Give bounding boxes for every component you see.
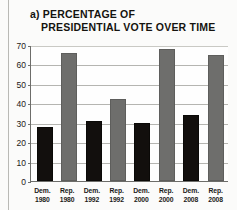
- bar-rep-2008: [208, 55, 224, 181]
- plot-area: [30, 46, 228, 182]
- y-tick-label-10: 10: [2, 159, 26, 167]
- bar-slot: [33, 46, 57, 181]
- x-tick-label-rep-2008: Rep.2008: [203, 186, 228, 204]
- x-tick-label-rep-2000: Rep.2000: [154, 186, 179, 204]
- x-label-year: 1980: [55, 195, 80, 204]
- x-label-party: Rep.: [55, 186, 80, 195]
- bar-dem-1992: [86, 121, 102, 181]
- bar-group: [33, 46, 229, 181]
- bar-slot: [81, 46, 105, 181]
- bar-slot: [57, 46, 81, 181]
- bar-rep-1992: [110, 99, 126, 181]
- y-tick-label-70: 70: [2, 42, 26, 50]
- y-tick-label-60: 60: [2, 61, 26, 69]
- x-label-year: 1980: [30, 195, 55, 204]
- chart-title-line-2: PRESIDENTIAL VOTE OVER TIME: [30, 21, 230, 34]
- x-tick-label-dem-1992: Dem.1992: [80, 186, 105, 204]
- x-label-party: Dem.: [30, 186, 55, 195]
- y-tick-label-30: 30: [2, 120, 26, 128]
- y-tick-label-50: 50: [2, 81, 26, 89]
- chart-title: a) PERCENTAGE OF PRESIDENTIAL VOTE OVER …: [30, 8, 230, 34]
- x-label-year: 2000: [154, 195, 179, 204]
- bar-dem-2000: [134, 123, 150, 181]
- x-label-party: Rep.: [154, 186, 179, 195]
- x-tick-label-dem-2008: Dem.2008: [179, 186, 204, 204]
- bar-slot: [155, 46, 179, 181]
- x-tick-label-dem-2000: Dem.2000: [129, 186, 154, 204]
- chart-title-line-1: a) PERCENTAGE OF: [30, 8, 230, 21]
- x-label-year: 2008: [179, 195, 204, 204]
- bar-slot: [130, 46, 154, 181]
- x-label-party: Rep.: [203, 186, 228, 195]
- bar-rep-1980: [61, 53, 77, 181]
- bar-dem-2008: [183, 115, 199, 181]
- x-label-year: 1992: [80, 195, 105, 204]
- x-label-year: 2008: [203, 195, 228, 204]
- x-label-party: Dem.: [179, 186, 204, 195]
- bar-slot: [179, 46, 203, 181]
- y-tick-label-40: 40: [2, 100, 26, 108]
- bar-rep-2000: [159, 49, 175, 181]
- bar-slot: [106, 46, 130, 181]
- x-label-year: 2000: [129, 195, 154, 204]
- y-axis: 010203040506070: [0, 0, 30, 210]
- x-label-party: Dem.: [80, 186, 105, 195]
- y-tick-label-0: 0: [2, 178, 26, 186]
- y-tick-label-20: 20: [2, 139, 26, 147]
- x-tick-label-dem-1980: Dem.1980: [30, 186, 55, 204]
- x-label-year: 1992: [104, 195, 129, 204]
- bar-slot: [204, 46, 228, 181]
- x-tick-label-rep-1992: Rep.1992: [104, 186, 129, 204]
- x-axis-labels: Dem.1980Rep.1980Dem.1992Rep.1992Dem.2000…: [30, 186, 228, 204]
- x-tick-label-rep-1980: Rep.1980: [55, 186, 80, 204]
- x-label-party: Dem.: [129, 186, 154, 195]
- x-label-party: Rep.: [104, 186, 129, 195]
- chart-figure: a) PERCENTAGE OF PRESIDENTIAL VOTE OVER …: [0, 0, 237, 210]
- bar-dem-1980: [37, 127, 53, 181]
